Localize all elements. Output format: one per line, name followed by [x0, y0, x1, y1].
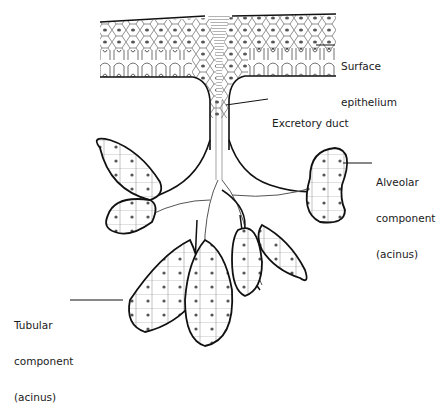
label-alveolar-line3: (acinus)	[376, 248, 435, 260]
label-surface-line2: epithelium	[341, 96, 397, 108]
label-alveolar-component: Alveolar component (acinus)	[376, 152, 435, 272]
tubular-acinus-right-outer	[259, 225, 307, 280]
label-tubular-component: Tubular component (acinus)	[14, 295, 73, 407]
label-tubular-line1: Tubular	[14, 319, 73, 331]
alveolar-acinus-right	[307, 148, 347, 223]
alveolar-acinus-left-lower	[106, 199, 155, 234]
label-excretory-duct-text: Excretory duct	[272, 117, 349, 129]
leader-excretory-duct	[226, 99, 268, 105]
label-tubular-line2: component	[14, 355, 73, 367]
alveolar-acinus-left-upper	[97, 139, 162, 200]
label-tubular-line3: (acinus)	[14, 391, 73, 403]
label-surface-line1: Surface	[341, 60, 397, 72]
label-surface-epithelium: Surface epithelium	[341, 36, 397, 120]
label-alveolar-line2: component	[376, 212, 435, 224]
label-excretory-duct: Excretory duct	[272, 93, 349, 141]
tubular-acinus-right-inner	[232, 228, 262, 296]
label-alveolar-line1: Alveolar	[376, 176, 435, 188]
